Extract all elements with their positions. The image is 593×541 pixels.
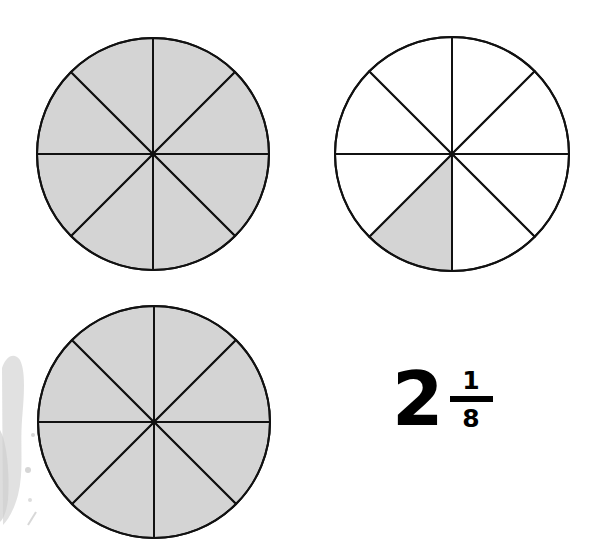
paint-smudge [0, 356, 36, 525]
fraction-circles-diagram [0, 0, 593, 541]
center-point [450, 152, 455, 157]
fraction-bar [450, 396, 493, 402]
denominator: 8 [462, 406, 479, 431]
mixed-number-label: 2 1 8 [392, 362, 493, 436]
center-point [151, 152, 156, 157]
circle-2 [335, 37, 569, 271]
whole-number: 2 [392, 362, 442, 436]
circle-1 [37, 38, 269, 270]
numerator: 1 [462, 368, 479, 393]
fraction: 1 8 [450, 368, 493, 431]
center-point [152, 420, 157, 425]
circle-3 [38, 306, 270, 538]
